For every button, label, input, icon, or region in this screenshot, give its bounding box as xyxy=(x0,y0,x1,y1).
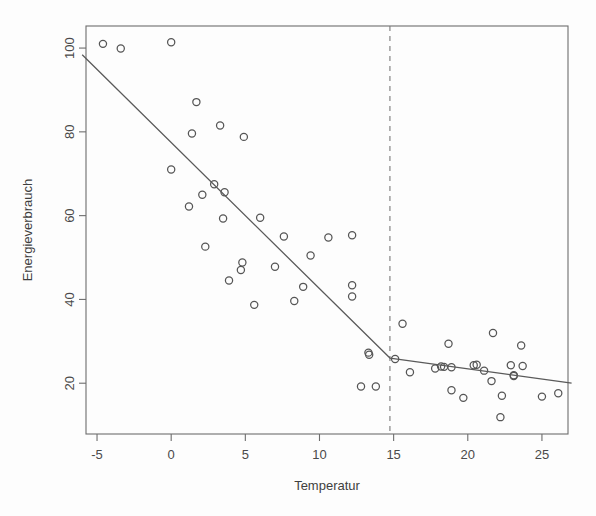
scatter-point xyxy=(357,383,364,390)
scatter-point xyxy=(555,390,562,397)
y-axis-ticks xyxy=(79,48,86,383)
scatter-point xyxy=(460,394,467,401)
scatter-point xyxy=(168,39,175,46)
scatter-point xyxy=(199,191,206,198)
x-tick-label: 10 xyxy=(312,447,326,462)
scatter-point xyxy=(518,342,525,349)
x-axis-tick-labels: -50510152025 xyxy=(91,447,549,462)
scatter-point xyxy=(507,362,514,369)
scatter-point xyxy=(325,234,332,241)
x-tick-label: 25 xyxy=(535,447,549,462)
data-points xyxy=(99,39,561,421)
x-tick-label: 20 xyxy=(461,447,475,462)
x-axis-ticks xyxy=(97,434,542,441)
scatter-point xyxy=(168,166,175,173)
scatter-point xyxy=(448,387,455,394)
scatter-point xyxy=(280,233,287,240)
scatter-point xyxy=(538,393,545,400)
x-tick-label: -5 xyxy=(91,447,103,462)
scatter-point xyxy=(225,277,232,284)
scatter-point xyxy=(445,340,452,347)
scatter-point xyxy=(372,383,379,390)
scatter-point xyxy=(300,283,307,290)
scatter-point xyxy=(307,252,314,259)
y-tick-label: 100 xyxy=(63,37,78,59)
scatter-point xyxy=(519,362,526,369)
scatter-plot-svg: -50510152025 20406080100 Temperatur Ener… xyxy=(0,0,596,516)
x-tick-label: 15 xyxy=(386,447,400,462)
scatter-point xyxy=(185,203,192,210)
y-axis-tick-labels: 20406080100 xyxy=(63,37,78,390)
segmented-regression-line xyxy=(82,55,571,383)
scatter-point xyxy=(488,378,495,385)
scatter-point xyxy=(251,301,258,308)
y-tick-label: 80 xyxy=(63,125,78,139)
scatter-point xyxy=(237,266,244,273)
y-tick-label: 20 xyxy=(63,376,78,390)
scatter-point xyxy=(291,297,298,304)
scatter-point xyxy=(349,282,356,289)
scatter-point xyxy=(193,99,200,106)
x-tick-label: 0 xyxy=(168,447,175,462)
scatter-point xyxy=(489,329,496,336)
scatter-point xyxy=(240,133,247,140)
scatter-point xyxy=(497,414,504,421)
scatter-point xyxy=(188,130,195,137)
scatter-point xyxy=(406,369,413,376)
scatter-point xyxy=(99,40,106,47)
r-plot-canvas: -50510152025 20406080100 Temperatur Ener… xyxy=(0,0,596,516)
y-axis-title: Energieverbrauch xyxy=(20,179,35,282)
y-tick-label: 60 xyxy=(63,208,78,222)
scatter-point xyxy=(202,243,209,250)
y-tick-label: 40 xyxy=(63,292,78,306)
scatter-point xyxy=(349,293,356,300)
scatter-point xyxy=(399,320,406,327)
x-tick-label: 5 xyxy=(242,447,249,462)
scatter-point xyxy=(271,263,278,270)
scatter-point xyxy=(117,45,124,52)
scatter-point xyxy=(219,215,226,222)
scatter-point xyxy=(349,232,356,239)
scatter-point xyxy=(498,392,505,399)
x-axis-title: Temperatur xyxy=(294,478,360,493)
scatter-point xyxy=(257,214,264,221)
scatter-point xyxy=(217,122,224,129)
scatter-point xyxy=(239,259,246,266)
